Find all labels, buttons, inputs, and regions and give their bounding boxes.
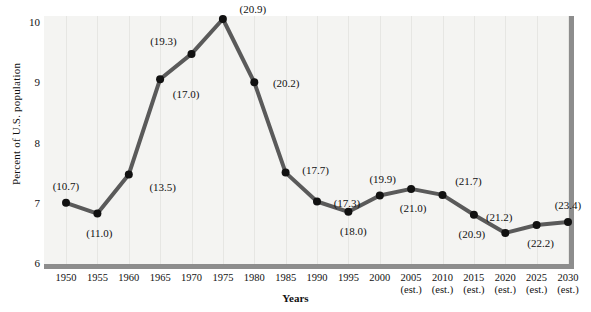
point-value-label: (13.5) (149, 181, 176, 193)
data-point-marker (250, 78, 258, 86)
data-point-marker (93, 210, 101, 218)
data-point-marker (313, 198, 321, 206)
point-value-label: (20.2) (273, 77, 300, 89)
x-tick-label: 1960 (118, 272, 139, 284)
data-point-marker (533, 221, 541, 229)
point-value-label: (19.9) (369, 173, 396, 185)
point-value-label: (20.9) (240, 3, 267, 15)
x-tick-label: 1955 (87, 272, 108, 284)
x-axis-title: Years (0, 292, 591, 304)
point-value-label: (11.0) (86, 227, 112, 239)
x-tick-label: 2000 (369, 272, 390, 284)
data-point-marker (219, 15, 227, 23)
x-tick-label: 1970 (181, 272, 202, 284)
x-tick-label: 1995 (338, 272, 359, 284)
point-value-label: (10.7) (53, 180, 80, 192)
data-series-line (0, 0, 591, 312)
point-value-label: (17.0) (173, 88, 200, 100)
point-value-label: (22.2) (527, 237, 554, 249)
data-point-marker (407, 185, 415, 193)
point-value-label: (20.9) (459, 228, 486, 240)
x-tick-label: 1985 (275, 272, 296, 284)
data-point-marker (62, 199, 70, 207)
point-value-label: (21.7) (455, 175, 482, 187)
point-value-label: (23.4) (555, 199, 582, 211)
data-point-marker (376, 192, 384, 200)
point-value-label: (21.2) (486, 211, 513, 223)
point-value-label: (17.7) (302, 164, 329, 176)
point-value-label: (21.0) (400, 202, 427, 214)
x-tick-label: 1965 (150, 272, 171, 284)
point-value-label: (18.0) (340, 225, 367, 237)
data-point-marker (125, 170, 133, 178)
x-tick-label: 1990 (307, 272, 328, 284)
data-point-marker (156, 75, 164, 83)
data-point-marker (564, 218, 572, 226)
data-point-marker (282, 169, 290, 177)
chart-figure: Percent of U.S. population 678910 (10.7)… (0, 0, 591, 312)
data-point-marker (501, 229, 509, 237)
data-point-marker (470, 211, 478, 219)
data-point-marker (344, 208, 352, 216)
x-tick-label: 1980 (244, 272, 265, 284)
x-tick-label: 1950 (56, 272, 77, 284)
point-value-label: (19.3) (150, 35, 177, 47)
data-point-marker (439, 191, 447, 199)
data-point-marker (188, 50, 196, 58)
point-value-label: (17.3) (334, 197, 361, 209)
x-tick-label: 1975 (212, 272, 233, 284)
